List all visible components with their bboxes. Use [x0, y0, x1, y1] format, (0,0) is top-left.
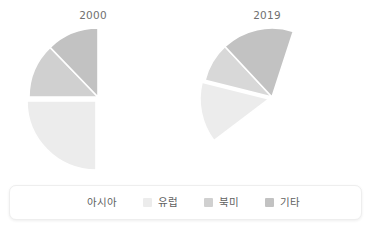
pie-svg-2019 — [174, 0, 360, 178]
legend-item-label: 아시아 — [87, 196, 117, 209]
legend-items: 아시아유럽북미기타 — [72, 196, 300, 209]
legend-item[interactable]: 아시아 — [72, 196, 117, 209]
pie-chart-figure: 2000 2019 아시아유럽북미기타 — [0, 0, 373, 232]
legend-item-label: 유럽 — [158, 196, 178, 209]
legend-item-label: 북미 — [219, 196, 239, 209]
pie-chart-panel-2000: 2000 — [0, 0, 186, 178]
legend-swatch-icon — [143, 198, 152, 207]
legend-item[interactable]: 유럽 — [143, 196, 178, 209]
legend-card: 아시아유럽북미기타 — [9, 185, 362, 220]
pie-chart-panel-2019: 2019 — [174, 0, 360, 178]
legend-item-label: 기타 — [280, 196, 300, 209]
legend-item[interactable]: 기타 — [265, 196, 300, 209]
legend-swatch-icon — [265, 198, 274, 207]
legend-swatch-icon — [72, 198, 81, 207]
legend-item[interactable]: 북미 — [204, 196, 239, 209]
pie-slice — [27, 101, 96, 170]
pie-svg-2000 — [0, 0, 186, 178]
legend-swatch-icon — [204, 198, 213, 207]
